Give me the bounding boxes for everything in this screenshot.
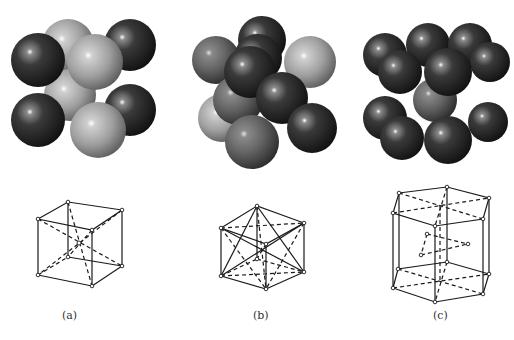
sphere [11,93,65,147]
fcc-sphere-model [192,16,337,169]
sphere [287,103,337,153]
hcp-unit-cell [391,185,491,304]
sphere [380,116,424,160]
sphere [225,115,279,169]
panel-label-c: (c) [433,309,448,322]
sphere [67,34,123,90]
fcc-unit-cell [219,204,306,291]
sphere [424,48,472,96]
sphere [424,116,472,164]
panel-label-b: (b) [253,309,269,322]
panel-label-a: (a) [62,309,77,322]
bcc-sphere-model [11,19,156,158]
sphere [470,42,510,82]
bcc-unit-cell [36,200,124,288]
sphere [70,102,126,158]
crystal-structures-figure [0,0,514,340]
sphere [378,50,422,94]
hcp-sphere-model [363,23,510,164]
sphere [11,33,65,87]
sphere [468,102,508,142]
